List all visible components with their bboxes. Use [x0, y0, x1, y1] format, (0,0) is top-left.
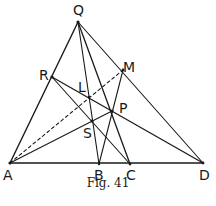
segment-rd	[52, 77, 203, 163]
point-r	[50, 75, 53, 78]
segment-qd	[78, 22, 203, 163]
point-q	[76, 20, 79, 23]
label-p: P	[119, 101, 127, 115]
point-p	[110, 109, 113, 112]
point-b	[98, 163, 100, 165]
segment-aq	[10, 22, 78, 163]
segment-ap	[10, 111, 112, 163]
segment-am-dashed	[10, 70, 123, 163]
label-s: S	[83, 126, 92, 140]
point-d	[202, 162, 205, 165]
point-s	[90, 119, 93, 122]
label-l: L	[78, 80, 86, 94]
label-q: Q	[73, 3, 84, 17]
point-l	[88, 96, 90, 98]
figure-caption: Fig. 41	[0, 176, 216, 190]
label-m: M	[123, 60, 135, 74]
label-r: R	[39, 68, 49, 82]
point-a	[8, 161, 11, 164]
segment-bm	[99, 70, 123, 164]
point-c	[129, 163, 132, 166]
